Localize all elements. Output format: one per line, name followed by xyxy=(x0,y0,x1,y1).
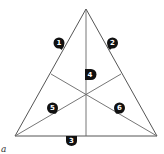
region-label-5: 5 xyxy=(50,104,55,112)
cevian-right-to-left-side xyxy=(51,74,157,136)
region-badge-5: 5 xyxy=(47,103,58,114)
region-label-4: 4 xyxy=(88,71,93,79)
region-label-2: 2 xyxy=(110,39,115,47)
region-badge-6: 6 xyxy=(114,103,125,114)
cevian-left-to-right-side xyxy=(15,74,121,136)
corner-label: a xyxy=(1,144,6,154)
region-badge-1: 1 xyxy=(54,38,65,51)
region-badge-3: 3 xyxy=(66,136,77,146)
region-label-1: 1 xyxy=(57,39,62,47)
triangle-diagram: 1 2 4 5 6 3 a xyxy=(0,0,164,154)
region-badge-2: 2 xyxy=(107,38,118,51)
region-label-6: 6 xyxy=(117,104,122,112)
region-label-3: 3 xyxy=(69,137,74,145)
region-badge-4: 4 xyxy=(85,69,97,80)
